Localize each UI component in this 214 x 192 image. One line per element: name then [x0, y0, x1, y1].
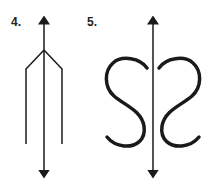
- s-curve-right: [159, 58, 200, 146]
- diagram-canvas: [0, 0, 214, 192]
- figure-4: [26, 20, 62, 174]
- trident-left-prong: [26, 50, 44, 144]
- trident-right-prong: [44, 50, 62, 144]
- figure-5: [106, 20, 199, 174]
- s-curve-left: [106, 58, 147, 146]
